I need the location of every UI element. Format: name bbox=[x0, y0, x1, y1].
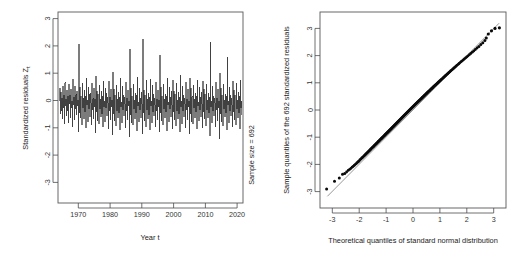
svg-text:1: 1 bbox=[44, 71, 53, 75]
svg-text:2020: 2020 bbox=[229, 210, 245, 219]
svg-text:3: 3 bbox=[44, 17, 53, 21]
svg-text:3: 3 bbox=[306, 26, 315, 30]
y-axis-ticks-left bbox=[53, 19, 58, 183]
svg-text:Sample size = 692: Sample size = 692 bbox=[247, 125, 256, 184]
x-axis-ticklabels-left: 1970 1980 1990 2000 2010 2020 bbox=[70, 210, 245, 219]
svg-text:-1: -1 bbox=[306, 134, 315, 140]
svg-text:1: 1 bbox=[306, 81, 315, 85]
svg-text:2000: 2000 bbox=[166, 210, 182, 219]
x-axis-ticklabels-right: -3 -2 -1 0 1 2 3 bbox=[329, 215, 496, 224]
svg-text:1: 1 bbox=[438, 215, 442, 224]
svg-text:Sample quantiles of the 692 st: Sample quantiles of the 692 standardized… bbox=[282, 26, 291, 194]
svg-text:-3: -3 bbox=[306, 188, 315, 194]
svg-text:-1: -1 bbox=[44, 125, 53, 131]
svg-text:0: 0 bbox=[411, 215, 415, 224]
svg-text:-2: -2 bbox=[44, 152, 53, 158]
svg-text:3: 3 bbox=[492, 215, 496, 224]
svg-text:-3: -3 bbox=[329, 215, 335, 224]
qq-plot: 3 2 1 0 -1 -2 -3 -3 -2 bbox=[263, 0, 526, 256]
svg-text:1970: 1970 bbox=[70, 210, 86, 219]
residual-series bbox=[60, 39, 243, 139]
svg-text:0: 0 bbox=[306, 108, 315, 112]
x-axis-label-right: Theoretical quantiles of standard normal… bbox=[328, 236, 498, 245]
svg-text:0: 0 bbox=[44, 99, 53, 103]
svg-text:2: 2 bbox=[306, 54, 315, 58]
y-axis-ticks-right bbox=[315, 28, 320, 191]
sample-size-note: Sample size = 692 bbox=[247, 125, 256, 184]
svg-text:-3: -3 bbox=[44, 179, 53, 185]
panel-standardized-residuals-time-series: 3 2 1 0 -1 -2 -3 1970 1980 19 bbox=[0, 0, 263, 256]
x-axis-ticks-right bbox=[332, 208, 493, 213]
y-axis-label-right: Sample quantiles of the 692 standardized… bbox=[282, 26, 291, 194]
x-axis-label-left: Year t bbox=[140, 233, 159, 242]
svg-text:1990: 1990 bbox=[134, 210, 150, 219]
qq-points bbox=[325, 26, 501, 190]
svg-text:2: 2 bbox=[465, 215, 469, 224]
svg-text:1980: 1980 bbox=[102, 210, 118, 219]
figure-canvas: 3 2 1 0 -1 -2 -3 1970 1980 19 bbox=[0, 0, 526, 256]
svg-text:2010: 2010 bbox=[197, 210, 213, 219]
time-series-plot: 3 2 1 0 -1 -2 -3 1970 1980 19 bbox=[0, 0, 263, 256]
qq-reference-line bbox=[327, 23, 499, 196]
svg-text:2: 2 bbox=[44, 44, 53, 48]
svg-text:-2: -2 bbox=[306, 161, 315, 167]
y-axis-ticklabels-left: 3 2 1 0 -1 -2 -3 bbox=[44, 17, 53, 186]
panel-normal-qq-plot: 3 2 1 0 -1 -2 -3 -3 -2 bbox=[263, 0, 526, 256]
svg-text:-2: -2 bbox=[356, 215, 362, 224]
x-axis-ticks-left bbox=[78, 203, 237, 208]
svg-text:-1: -1 bbox=[383, 215, 389, 224]
y-axis-ticklabels-right: 3 2 1 0 -1 -2 -3 bbox=[306, 26, 315, 194]
svg-text:Standardized residuals Zt: Standardized residuals Zt bbox=[21, 66, 31, 150]
y-axis-label-left: Standardized residuals Zt bbox=[21, 66, 31, 150]
